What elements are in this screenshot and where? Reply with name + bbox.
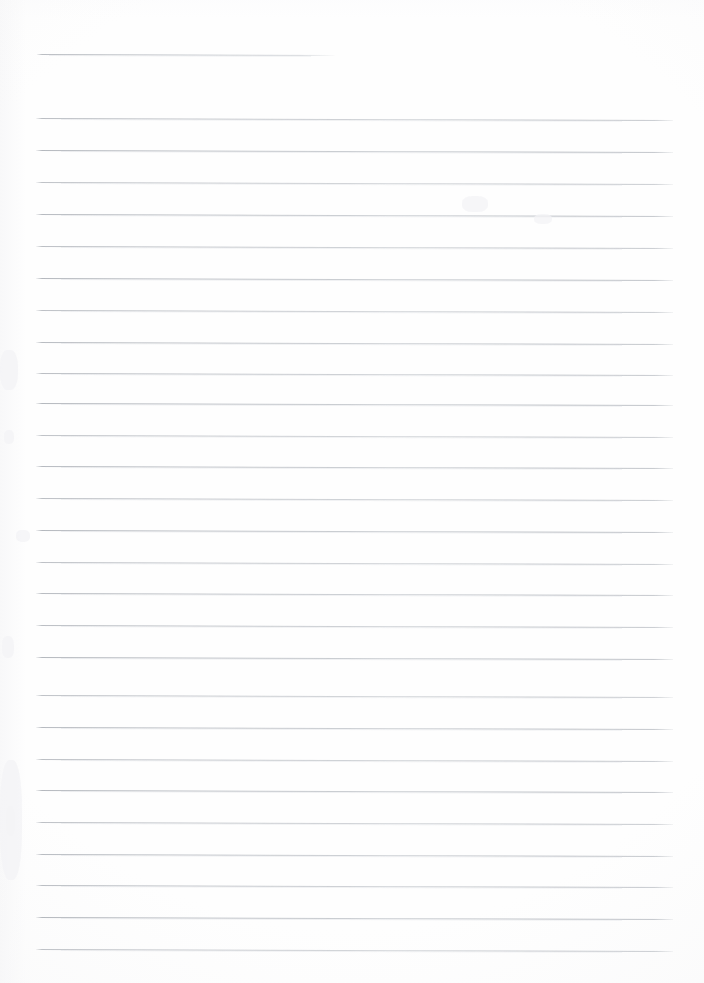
- ruled-line: [36, 562, 673, 565]
- ruled-line: [36, 759, 673, 762]
- ruled-line: [36, 278, 673, 281]
- ruled-line: [36, 727, 673, 730]
- ruled-line: [36, 917, 673, 920]
- ruled-line: [36, 214, 673, 217]
- ruled-lines-layer: [0, 0, 704, 983]
- ruled-line: [36, 150, 673, 153]
- scanned-page: [0, 0, 704, 983]
- ruled-line-header: [37, 54, 335, 56]
- ruled-line: [36, 790, 673, 793]
- ruled-line: [36, 182, 673, 185]
- ruled-line: [36, 466, 673, 469]
- ruled-line: [36, 695, 673, 698]
- ruled-line: [36, 498, 673, 501]
- ruled-line: [36, 435, 673, 438]
- ruled-line: [36, 118, 673, 121]
- ruled-line: [36, 949, 673, 952]
- ruled-line: [36, 246, 673, 249]
- ruled-line: [36, 593, 673, 596]
- ruled-line: [36, 310, 673, 313]
- ruled-line: [36, 530, 673, 533]
- ruled-line: [36, 854, 673, 857]
- ruled-line: [36, 342, 673, 345]
- ruled-line: [36, 625, 673, 628]
- ruled-line: [36, 373, 673, 376]
- ruled-line: [36, 885, 673, 888]
- ruled-line: [36, 403, 673, 406]
- ruled-line: [36, 822, 673, 825]
- ruled-line: [36, 657, 673, 660]
